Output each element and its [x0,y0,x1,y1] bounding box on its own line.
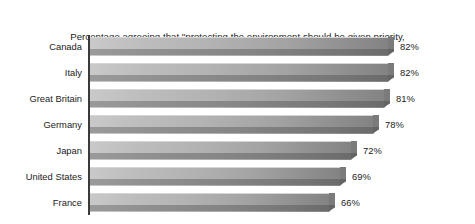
bar-chart: Percentage agreeing that "protecting the… [0,0,475,224]
bar-italy [90,63,388,82]
category-label-japan: Japan [0,141,82,160]
bar-united-states [90,167,340,186]
bar-row: United States 69% [0,167,475,186]
bar-france [90,193,329,212]
bar-bevel-face [90,205,329,211]
bar-end-cap-shade [329,205,335,211]
bar-bevel-face [90,101,384,107]
plot-area: Canada 82% Italy 82% Great Britain [0,34,475,224]
category-label-canada: Canada [0,37,82,56]
bar-highlight [90,141,351,142]
bar-japan [90,141,351,160]
category-label-great-britain: Great Britain [0,89,82,108]
bar-highlight [90,115,373,116]
bar-germany [90,115,373,134]
bar-row: France 66% [0,193,475,212]
bar-value-italy: 82% [400,63,419,82]
bar-row: Italy 82% [0,63,475,82]
bar-bevel-face [90,49,388,55]
bar-end-cap-shade [388,75,394,81]
bar-end-cap-shade [340,179,346,185]
bar-end-cap-shade [384,101,390,107]
category-label-france: France [0,193,82,212]
bar-canada [90,37,388,56]
bar-great-britain [90,89,384,108]
bar-bevel-face [90,75,388,81]
category-label-italy: Italy [0,63,82,82]
bar-row: Germany 78% [0,115,475,134]
bar-value-canada: 82% [400,37,419,56]
bar-row: Japan 72% [0,141,475,160]
bar-value-germany: 78% [385,115,404,134]
bar-row: Canada 82% [0,37,475,56]
bar-highlight [90,37,388,38]
bar-end-cap-shade [351,153,357,159]
bar-row: Great Britain 81% [0,89,475,108]
bar-bevel-face [90,153,351,159]
bar-value-japan: 72% [363,141,382,160]
bar-highlight [90,63,388,64]
bar-highlight [90,167,340,168]
bar-value-great-britain: 81% [396,89,415,108]
bar-bevel-face [90,127,373,133]
category-label-germany: Germany [0,115,82,134]
bar-value-france: 66% [341,193,360,212]
bar-highlight [90,193,329,194]
bar-bevel-face [90,179,340,185]
bar-end-cap-shade [388,49,394,55]
bar-highlight [90,89,384,90]
bar-value-united-states: 69% [352,167,371,186]
category-label-united-states: United States [0,167,82,186]
bar-end-cap-shade [373,127,379,133]
